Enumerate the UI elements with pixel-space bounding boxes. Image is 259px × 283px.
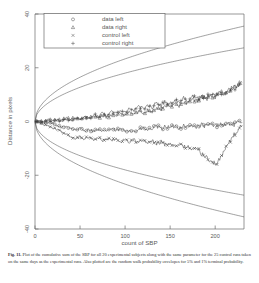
series-line [35,84,242,123]
marker-cross-x [238,127,241,130]
marker-cross-x [197,147,200,150]
marker-cross-x [175,144,178,147]
marker-plus [143,107,147,111]
x-tick-label: 100 [120,233,129,239]
marker-plus [170,102,174,106]
marker-plus [121,109,125,113]
figure-caption-text: Plot of the cumulative sum of the SBP fo… [8,252,251,264]
series-layer [35,81,242,166]
y-tick-label: -20 [24,171,30,179]
series-data-right [35,81,242,123]
marker-cross-x [211,161,214,164]
y-tick-label: 20 [24,65,30,71]
y-axis-label: Distance in pixels [6,97,13,145]
y-tick-label: 0 [24,120,30,123]
marker-cross-x [89,137,92,140]
chart-svg: 40200-20-40 050100150200 count of SBP Di… [0,0,259,250]
marker-cross-x [53,126,56,129]
marker-cross-x [206,158,209,161]
marker-plus [139,107,143,111]
marker-cross-x [62,132,65,135]
marker-cross-x [166,144,169,147]
marker-cross-x [112,137,115,140]
x-axis-label: count of SBP [121,239,157,246]
x-tick-label: 0 [33,233,36,239]
marker-cross-x [121,140,124,143]
marker-cross-x [193,147,196,150]
marker-cross-x [98,136,101,139]
marker-cross-x [103,139,106,142]
marker-cross-x [184,147,187,150]
probability-envelopes [35,26,244,217]
envelope-curve [35,122,244,217]
figure-container: 40200-20-40 050100150200 count of SBP Di… [0,0,259,283]
y-tick-label: -40 [24,225,30,233]
x-tick-marks [35,226,215,230]
x-tick-labels: 050100150200 [33,233,219,239]
marker-cross-x [233,134,236,137]
y-tick-labels: 40200-20-40 [24,11,30,233]
marker-cross-x [58,129,61,132]
series-data-left [35,119,242,133]
figure-number: Fig. 11. [8,252,21,257]
figure-caption: Fig. 11. Plot of the cumulative sum of t… [8,252,251,265]
marker-cross-x [85,135,88,138]
marker-cross-x [139,139,142,142]
legend-label-3: control right [102,40,134,46]
legend-label-1: data right [102,24,127,30]
x-tick-label: 50 [77,233,83,239]
legend: data leftdata rightcontrol leftcontrol r… [44,14,165,49]
marker-cross-x [202,154,205,157]
marker-cross-x [125,138,128,141]
marker-plus [152,104,156,108]
marker-cross-x [76,136,79,139]
series-line [35,121,242,133]
x-tick-label: 200 [211,233,220,239]
series-line [35,82,242,122]
y-tick-label: 40 [24,11,30,17]
series-control-left [35,121,242,166]
marker-cross-x [116,139,119,142]
legend-label-0: data left [102,16,124,22]
marker-cross-x [71,137,74,140]
x-tick-label: 150 [165,233,174,239]
marker-cross-x [44,123,47,126]
legend-label-2: control left [102,32,130,38]
marker-cross-x [170,144,173,147]
plot-area: 40200-20-40 050100150200 count of SBP Di… [0,0,259,250]
marker-plus [53,118,57,122]
marker-cross-x [215,163,218,166]
marker-cross-x [152,142,155,145]
marker-cross-x [107,137,110,140]
marker-plus [94,112,98,116]
